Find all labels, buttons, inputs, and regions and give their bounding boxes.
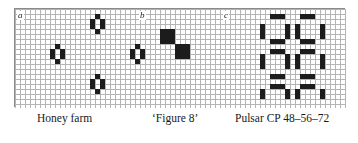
panel-label-b: b — [139, 11, 146, 20]
panel-label-a: a — [17, 11, 24, 20]
panel-label-c: c — [223, 11, 229, 20]
caption-honey-farm: Honey farm — [37, 112, 92, 124]
life-grid-canvas — [15, 9, 346, 108]
caption-pulsar: Pulsar CP 48–56–72 — [235, 112, 329, 124]
life-patterns-figure: a b c Honey farm ‘Figure 8’ Pulsar CP 48… — [0, 0, 358, 143]
life-grid-panel — [14, 8, 345, 107]
caption-row: Honey farm ‘Figure 8’ Pulsar CP 48–56–72 — [0, 112, 358, 138]
caption-figure-eight: ‘Figure 8’ — [152, 112, 198, 124]
